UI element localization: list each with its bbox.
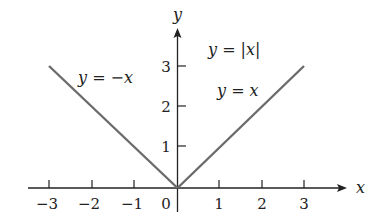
annotation-y-neg-x: y = −x <box>77 68 133 87</box>
annotation-y-abs-x: y = |x| <box>207 40 260 59</box>
abs-value-graph: −3 −2 −1 0 1 2 3 3 2 1 x y y = −x y = |x… <box>0 0 381 224</box>
x-tick-label: −3 <box>36 195 58 213</box>
annotation-y-x: y = x <box>216 81 259 100</box>
x-tick-label: 0 <box>161 195 171 213</box>
x-tick-label: −1 <box>121 195 143 213</box>
x-tick-label: 2 <box>257 195 267 213</box>
x-tick-label: −2 <box>78 195 100 213</box>
x-tick-label: 3 <box>299 195 309 213</box>
y-axis-label: y <box>172 5 183 24</box>
y-tick-label: 3 <box>161 58 171 76</box>
x-tick-label: 1 <box>214 195 224 213</box>
y-tick-label: 1 <box>161 138 171 156</box>
x-axis-label: x <box>356 178 365 197</box>
y-ticks <box>178 66 187 146</box>
y-tick-label: 2 <box>161 98 171 116</box>
